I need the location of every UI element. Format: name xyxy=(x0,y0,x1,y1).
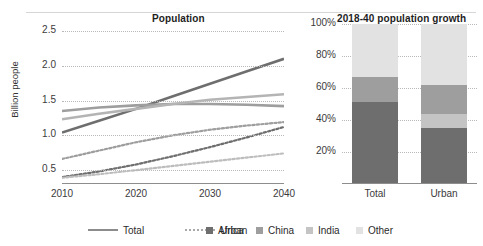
legend-label: China xyxy=(268,225,294,236)
chart-legend: TotalUrbanAfricaChinaIndiaOther xyxy=(0,220,483,240)
legend-label: Other xyxy=(368,225,393,236)
legend-square-icon xyxy=(356,227,363,234)
legend-label: Africa xyxy=(218,225,244,236)
legend-square-icon xyxy=(206,227,213,234)
legend-item-africa[interactable]: Africa xyxy=(206,225,244,236)
right-y-tick-label: 80% xyxy=(296,49,336,60)
left-x-tick-label: 2010 xyxy=(51,188,73,199)
legend-square-icon xyxy=(256,227,263,234)
right-chart-title: 2018-40 population growth xyxy=(337,13,466,24)
legend-square-icon xyxy=(306,227,313,234)
left-x-tick-label: 2040 xyxy=(273,188,295,199)
right-y-tick-label: 40% xyxy=(296,113,336,124)
legend-item-other[interactable]: Other xyxy=(356,225,393,236)
right-x-tick-label: Total xyxy=(364,188,385,199)
right-x-tick-label: Urban xyxy=(430,188,457,199)
population-line-chart: Billion people 0.51.01.52.02.5 201020202… xyxy=(0,24,300,214)
legend-item-china[interactable]: China xyxy=(256,225,294,236)
legend-item-total[interactable]: Total xyxy=(88,225,144,236)
left-chart-title: Population xyxy=(152,13,205,24)
left-y-axis: 0.51.01.52.02.5 xyxy=(22,24,56,184)
left-x-tick-label: 2020 xyxy=(125,188,147,199)
chart-figure: Population Billion people 0.51.01.52.02.… xyxy=(0,0,483,246)
legend-label: India xyxy=(318,225,340,236)
left-y-tick-label: 1.5 xyxy=(22,94,56,105)
right-x-tick-group: TotalUrban xyxy=(342,24,477,214)
left-y-tick-label: 2.5 xyxy=(22,24,56,35)
left-x-tick-label: 2030 xyxy=(199,188,221,199)
left-y-tick-label: 2.0 xyxy=(22,59,56,70)
legend-label: Total xyxy=(123,225,144,236)
left-x-tick-group: 2010202020302040 xyxy=(62,24,284,214)
right-y-tick-label: 100% xyxy=(296,17,336,28)
right-y-axis: 20%40%60%80%100% xyxy=(296,24,336,184)
growth-stacked-bar-chart: 20%40%60%80%100% TotalUrban xyxy=(296,24,483,214)
right-y-tick-label: 60% xyxy=(296,81,336,92)
legend-item-india[interactable]: India xyxy=(306,225,340,236)
right-y-tick-label: 20% xyxy=(296,145,336,156)
legend-solid-line-icon xyxy=(88,229,118,231)
left-y-tick-label: 1.0 xyxy=(22,128,56,139)
left-axis-label: Billion people xyxy=(9,50,20,130)
left-y-tick-label: 0.5 xyxy=(22,163,56,174)
